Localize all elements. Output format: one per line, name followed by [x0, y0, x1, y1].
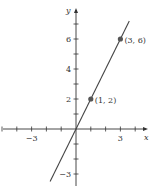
data-point [118, 36, 123, 41]
x-tick-label: −3 [26, 134, 38, 143]
y-axis-arrow-icon [74, 8, 78, 13]
y-axis-label: y [65, 6, 71, 15]
y-tick-label: −3 [59, 170, 71, 179]
x-axis-label: x [144, 133, 149, 142]
graph: −33−3246 x y (1, 2)(3, 6) [0, 0, 156, 188]
x-axis-arrow-icon [143, 127, 148, 131]
y-tick-label: 4 [66, 65, 71, 74]
y-tick-label: 2 [66, 95, 71, 104]
point-label: (1, 2) [95, 96, 117, 105]
data-point [88, 96, 93, 101]
x-tick-label: 3 [118, 134, 123, 143]
tick-labels: −33−3246 [26, 35, 123, 179]
y-tick-label: 6 [66, 35, 71, 44]
point-label: (3, 6) [124, 36, 146, 45]
